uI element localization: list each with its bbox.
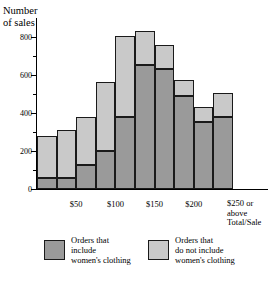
bar-segment-with-womens-clothing: [96, 151, 116, 189]
legend-label-line: women's clothing: [175, 256, 235, 266]
bar: [155, 45, 175, 189]
bar-segment-with-womens-clothing: [155, 69, 175, 189]
legend-label-line: women's clothing: [71, 256, 131, 266]
bar: [174, 80, 194, 189]
y-tick-minor: [33, 132, 37, 133]
bar-segment-with-womens-clothing: [194, 122, 214, 189]
x-axis-label-line: Total/Sale: [227, 218, 261, 228]
bar-segment-without-womens-clothing: [213, 93, 233, 117]
x-tick-label: $50: [70, 199, 83, 209]
bar: [96, 82, 116, 189]
bar-segment-without-womens-clothing: [115, 36, 135, 117]
x-tick-label: $100: [107, 199, 124, 209]
bar-segment-with-womens-clothing: [115, 117, 135, 189]
y-tick-minor: [33, 94, 37, 95]
chart-legend: Orders thatincludewomen's clothingOrders…: [0, 236, 272, 276]
y-axis-title-line-1: Number: [3, 5, 49, 17]
x-axis-label: $250 oraboveTotal/Sale: [227, 199, 261, 228]
bar-segment-with-womens-clothing: [135, 65, 155, 189]
bar-group: [37, 18, 233, 189]
bar: [76, 117, 96, 189]
sales-bar-chart: Number of sales 0200400600800 $50$100$15…: [0, 0, 272, 282]
bar-segment-without-womens-clothing: [96, 82, 116, 151]
y-tick-major: [31, 113, 36, 114]
bar: [213, 93, 233, 189]
bar: [135, 31, 155, 189]
x-tick-label: $150: [146, 199, 163, 209]
y-axis-tick-labels: 0200400600800: [0, 18, 34, 190]
legend-swatch-light: [148, 240, 169, 260]
bar: [115, 36, 135, 189]
x-axis-tick-labels: $50$100$150$200$250 oraboveTotal/Sale: [0, 193, 272, 227]
legend-label: Orders thatincludewomen's clothing: [71, 236, 131, 265]
x-axis-line: [36, 189, 268, 190]
y-tick-major: [31, 37, 36, 38]
bar-segment-with-womens-clothing: [76, 165, 96, 189]
bar-segment-with-womens-clothing: [57, 178, 77, 189]
bar-segment-with-womens-clothing: [213, 117, 233, 189]
bar-segment-without-womens-clothing: [37, 136, 57, 178]
y-tick-minor: [33, 56, 37, 57]
plot-area: [36, 18, 232, 190]
bar-segment-with-womens-clothing: [174, 96, 194, 189]
bar: [57, 130, 77, 189]
bar-segment-without-womens-clothing: [57, 130, 77, 178]
y-tick-major: [31, 189, 36, 190]
bar-segment-without-womens-clothing: [194, 107, 214, 121]
y-tick-major: [31, 75, 36, 76]
bar: [194, 107, 214, 189]
bar-segment-without-womens-clothing: [155, 45, 175, 70]
bar-segment-without-womens-clothing: [135, 31, 155, 64]
legend-label: Orders thatdo not includewomen's clothin…: [175, 236, 235, 265]
legend-swatch-dark: [44, 240, 65, 260]
bar-segment-without-womens-clothing: [76, 117, 96, 165]
y-tick-minor: [33, 170, 37, 171]
y-tick-major: [31, 151, 36, 152]
bar: [37, 136, 57, 189]
bar-segment-with-womens-clothing: [37, 178, 57, 189]
bar-segment-without-womens-clothing: [174, 80, 194, 96]
x-tick-label: $200: [185, 199, 202, 209]
